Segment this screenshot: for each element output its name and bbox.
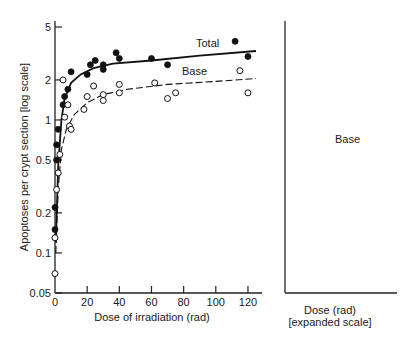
total-data-point (55, 126, 61, 132)
x-tick-label: 20 (81, 296, 93, 308)
total-data-point (165, 62, 171, 68)
base-curve-label-right: Base (335, 133, 360, 145)
base-data-point (173, 90, 179, 96)
x-tick-label: 120 (239, 296, 257, 308)
total-curve-label: Total (196, 37, 219, 49)
y-tick-label: 0.1 (36, 247, 51, 259)
total-data-point (245, 54, 251, 60)
total-data-point (113, 50, 119, 56)
base-data-point (68, 126, 74, 132)
base-data-point (57, 151, 63, 157)
y-tick-label: 2 (45, 74, 51, 86)
base-data-point (60, 77, 66, 83)
base-curve-label-left: Base (182, 65, 207, 77)
right-panel (285, 21, 397, 293)
x-tick-label: 100 (207, 296, 225, 308)
total-data-point (68, 69, 74, 75)
y-tick-label: 0.2 (36, 207, 51, 219)
total-data-point (148, 55, 154, 61)
base-data-point (165, 96, 171, 102)
right-x-axis-note: [expanded scale] (288, 316, 371, 328)
right-x-axis-label: Dose (rad) (304, 304, 356, 316)
total-data-point (100, 66, 106, 72)
base-data-point (100, 98, 106, 104)
base-data-point (65, 102, 71, 108)
base-data-point (52, 271, 58, 277)
chart-figure: 0.050.10.20.5125020406080100120 Apoptose… (0, 0, 414, 350)
base-data-point (91, 83, 97, 89)
base-data-point (54, 187, 60, 193)
x-tick-label: 0 (52, 296, 58, 308)
base-fit-curve (56, 79, 256, 254)
total-data-point (116, 55, 122, 61)
total-data-point (62, 94, 68, 100)
base-data-point (100, 92, 106, 98)
y-tick-label: 0.5 (36, 154, 51, 166)
base-data-point (62, 114, 68, 120)
total-data-point (232, 38, 238, 44)
left-panel: 0.050.10.20.5125020406080100120 (30, 21, 262, 308)
base-data-point (237, 68, 243, 74)
base-data-point (84, 94, 90, 100)
base-data-point (245, 90, 251, 96)
total-data-point (65, 86, 71, 92)
left-x-axis-label: Dose of irradiation (rad) (94, 311, 210, 323)
base-data-point (116, 90, 122, 96)
base-data-point (81, 106, 87, 112)
x-tick-label: 80 (178, 296, 190, 308)
y-tick-label: 5 (45, 21, 51, 33)
x-tick-label: 40 (113, 296, 125, 308)
base-data-point (52, 235, 58, 241)
base-data-point (116, 81, 122, 87)
total-data-point (84, 71, 90, 77)
y-tick-label: 0.05 (30, 287, 51, 299)
y-tick-label: 1 (45, 114, 51, 126)
y-axis-label: Apoptoses per crypt section [log scale] (18, 63, 30, 251)
total-data-point (92, 57, 98, 63)
base-data-point (152, 80, 158, 86)
total-data-point (87, 62, 93, 68)
total-data-point (54, 142, 60, 148)
base-data-point (55, 170, 61, 176)
total-data-point (54, 157, 60, 163)
x-tick-label: 60 (145, 296, 157, 308)
